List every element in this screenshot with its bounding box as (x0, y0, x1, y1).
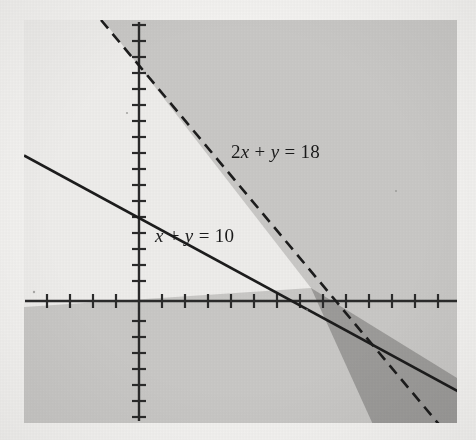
label-line-2x-plus-y-equals-18: 2x + y = 18 (231, 141, 320, 163)
label-line-x-plus-y-equals-10: x + y = 10 (155, 225, 234, 247)
coordinate-graph-figure (0, 0, 476, 440)
